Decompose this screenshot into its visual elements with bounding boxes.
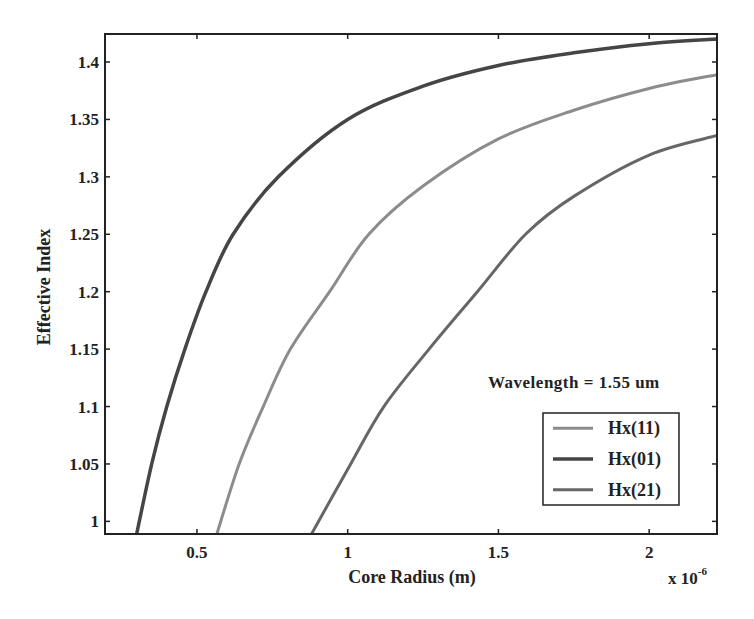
x-tick-label: 1 bbox=[343, 543, 352, 562]
y-tick-label: 1.1 bbox=[78, 398, 99, 417]
y-tick-label: 1.15 bbox=[69, 340, 99, 359]
legend: Hx(11)Hx(01)Hx(21) bbox=[543, 413, 679, 505]
x-tick-label: 1.5 bbox=[488, 543, 509, 562]
effective-index-chart: 0.511.5211.051.11.151.21.251.31.351.4 Co… bbox=[0, 0, 754, 619]
y-tick-label: 1.05 bbox=[69, 455, 99, 474]
legend-label: Hx(11) bbox=[608, 418, 660, 439]
wavelength-annotation: Wavelength = 1.55 um bbox=[488, 373, 660, 392]
y-tick-label: 1.2 bbox=[78, 283, 99, 302]
x-tick-label: 2 bbox=[645, 543, 654, 562]
y-tick-label: 1.4 bbox=[78, 53, 100, 72]
x-tick-label: 0.5 bbox=[186, 543, 207, 562]
x-axis-multiplier: x 10-6 bbox=[668, 565, 707, 588]
x-multiplier-exponent: -6 bbox=[698, 565, 708, 577]
x-multiplier-base: x 10 bbox=[668, 569, 698, 588]
y-tick-label: 1.35 bbox=[69, 110, 99, 129]
legend-label: Hx(01) bbox=[608, 449, 661, 470]
legend-label: Hx(21) bbox=[608, 480, 661, 501]
y-axis-label: Effective Index bbox=[34, 229, 54, 345]
y-tick-label: 1.25 bbox=[69, 225, 99, 244]
y-tick-label: 1.3 bbox=[78, 168, 99, 187]
y-tick-label: 1 bbox=[91, 512, 100, 531]
x-axis-label: Core Radius (m) bbox=[348, 567, 476, 588]
